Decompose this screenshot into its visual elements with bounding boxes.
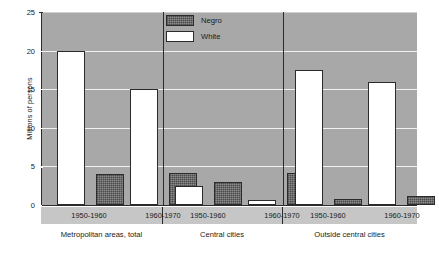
period-label-metro-1950-1960: 1950-1960 xyxy=(51,207,127,224)
group-separator-1 xyxy=(163,12,164,205)
bar-negro-metro-1950-1960 xyxy=(96,174,124,205)
legend-item-negro: Negro xyxy=(166,14,262,28)
legend-label-white: White xyxy=(201,31,220,42)
y-tick-5: 5 xyxy=(14,162,38,171)
y-tickmark-20 xyxy=(39,51,43,52)
bar-white-metro-1960-1970 xyxy=(130,89,158,205)
y-tickmark-10 xyxy=(39,128,43,129)
group-separator-2 xyxy=(283,12,284,205)
bar-white-metro-1950-1960 xyxy=(57,51,85,205)
period-label-outside-1960-1970: 1960-1970 xyxy=(364,207,439,224)
axis-top-line xyxy=(42,12,417,13)
legend-label-negro: Negro xyxy=(201,15,222,26)
legend-swatch-negro-icon xyxy=(166,15,194,26)
period-label-outside-1950-1960: 1950-1960 xyxy=(290,207,366,224)
bar-white-central-1960-1970 xyxy=(248,200,276,205)
legend-swatch-white-icon xyxy=(166,31,194,42)
bar-negro-outside-1960-1970 xyxy=(407,196,435,205)
bar-negro-central-1950-1960 xyxy=(214,182,242,205)
group-label-outside-central: Outside central cities xyxy=(282,228,417,242)
bar-white-outside-1950-1960 xyxy=(295,70,323,205)
legend: Negro White xyxy=(166,14,262,45)
bar-negro-outside-1950-1960 xyxy=(334,199,362,205)
y-axis-tick-labels: 25 20 15 10 5 0 xyxy=(14,0,38,256)
gridline-15 xyxy=(42,89,417,90)
y-tick-15: 15 xyxy=(14,85,38,94)
gridline-10 xyxy=(42,128,417,129)
period-label-band: 1950-1960 1960-1970 1950-1960 1960-1970 … xyxy=(41,207,417,224)
y-tickmark-15 xyxy=(39,89,43,90)
group-label-central-cities: Central cities xyxy=(162,228,282,242)
y-tick-0: 0 xyxy=(14,201,38,210)
bar-white-outside-1960-1970 xyxy=(368,82,396,206)
y-tick-20: 20 xyxy=(14,46,38,55)
bar-white-central-1950-1960 xyxy=(175,186,203,205)
gridline-20 xyxy=(42,51,417,52)
y-tickmark-5 xyxy=(39,166,43,167)
gridline-5 xyxy=(42,166,417,167)
y-tickmark-25 xyxy=(39,12,43,13)
legend-item-white: White xyxy=(166,30,262,44)
y-tick-10: 10 xyxy=(14,123,38,132)
y-tick-25: 25 xyxy=(14,8,38,17)
group-label-metropolitan: Metropolitan areas, total xyxy=(41,228,162,242)
group-label-band: Metropolitan areas, total Central cities… xyxy=(41,228,417,242)
period-label-central-1950-1960: 1950-1960 xyxy=(170,207,246,224)
